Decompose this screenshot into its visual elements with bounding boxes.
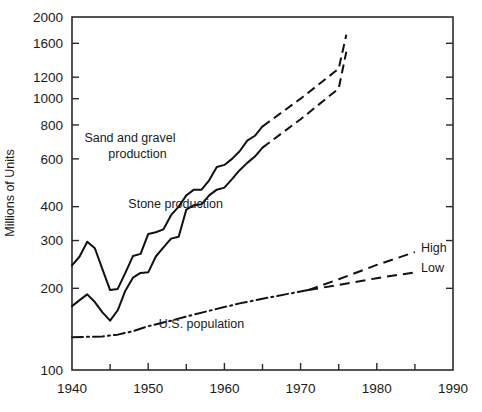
x-tick-label-1940: 1940 <box>57 381 87 396</box>
x-tick-label-1980: 1980 <box>362 381 392 396</box>
stone-label: Stone production <box>128 197 223 211</box>
y-axis-title: Millions of Units <box>3 149 17 237</box>
y-tick-label-200: 200 <box>40 281 63 296</box>
low-label: Low <box>421 261 445 275</box>
x-tick-label-1950: 1950 <box>133 381 163 396</box>
y-tick-label-600: 600 <box>40 152 63 167</box>
y-tick-label-2000: 2000 <box>33 10 63 25</box>
y-tick-label-1600: 1600 <box>33 36 63 51</box>
chart-figure: 1002003004006008001000120016002000 19401… <box>0 0 482 412</box>
y-tick-label-800: 800 <box>40 118 63 133</box>
high-label: High <box>421 241 447 255</box>
sand-gravel-label-line1: Sand and gravel <box>84 131 175 145</box>
y-tick-label-1200: 1200 <box>33 70 63 85</box>
population-label: U.S. population <box>159 317 245 331</box>
y-tick-label-400: 400 <box>40 199 63 214</box>
x-tick-label-1970: 1970 <box>286 381 316 396</box>
x-tick-label-1990: 1990 <box>438 381 468 396</box>
y-tick-label-300: 300 <box>40 233 63 248</box>
y-tick-label-100: 100 <box>40 363 63 378</box>
y-tick-label-1000: 1000 <box>33 91 63 106</box>
x-tick-label-1960: 1960 <box>209 381 239 396</box>
sand-gravel-label-line2: production <box>108 147 166 161</box>
production-projection-chart: 1002003004006008001000120016002000 19401… <box>0 0 482 412</box>
